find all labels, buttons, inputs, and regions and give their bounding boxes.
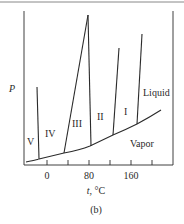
x-axis-label: t, °C (87, 185, 106, 196)
y-axis-label: P (8, 83, 15, 94)
boundary-ii-i (113, 48, 119, 135)
region-label-vapor: Vapor (130, 138, 155, 149)
boundary-i-liquid (137, 34, 142, 124)
tick-label-160: 160 (124, 170, 139, 181)
region-label-liquid: Liquid (143, 87, 170, 98)
tick-label-80: 80 (84, 170, 94, 181)
region-label-iv: IV (45, 128, 56, 139)
boundary-v-iv (37, 87, 39, 159)
x-ticks (47, 160, 152, 165)
x-axis-unit: , °C (90, 185, 106, 196)
region-label-iii: III (72, 118, 82, 129)
region-label-i: I (124, 106, 127, 117)
phase-diagram: P 0 80 160 t, °C (b) V IV III II I Liqui… (0, 0, 184, 224)
tick-label-0: 0 (45, 170, 50, 181)
region-label-ii: II (97, 111, 104, 122)
boundary-iii-ii (88, 15, 91, 146)
region-label-v: V (27, 136, 35, 147)
boundary-iv-iii (64, 15, 88, 153)
figure-caption: (b) (90, 204, 102, 216)
